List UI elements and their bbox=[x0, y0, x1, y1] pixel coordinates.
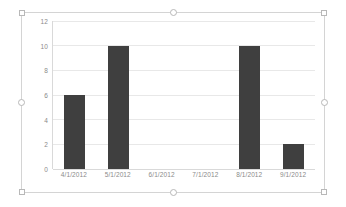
handle-middle-left[interactable] bbox=[18, 99, 25, 106]
handle-top-right[interactable] bbox=[321, 10, 327, 16]
y-axis-tick-label: 10 bbox=[41, 42, 48, 49]
handle-bottom-left[interactable] bbox=[19, 189, 25, 195]
bar[interactable] bbox=[239, 46, 260, 169]
chart-object[interactable]: 024681012 4/1/20125/1/20126/1/20127/1/20… bbox=[21, 12, 325, 193]
handle-top-left[interactable] bbox=[19, 10, 25, 16]
plot-area bbox=[52, 21, 315, 169]
y-axis-tick-label: 4 bbox=[44, 116, 48, 123]
x-axis-tick-label: 9/1/2012 bbox=[271, 171, 315, 178]
bar-slot bbox=[184, 21, 228, 169]
y-axis-tick-label: 2 bbox=[44, 141, 48, 148]
bar[interactable] bbox=[64, 95, 85, 169]
y-axis-tick-label: 8 bbox=[44, 67, 48, 74]
x-axis-tick-label: 5/1/2012 bbox=[96, 171, 140, 178]
bar-slot bbox=[140, 21, 184, 169]
bar[interactable] bbox=[108, 46, 129, 169]
chart-plot-wrapper: 024681012 4/1/20125/1/20126/1/20127/1/20… bbox=[22, 13, 324, 192]
y-axis-tick-label: 0 bbox=[44, 166, 48, 173]
handle-bottom-right[interactable] bbox=[321, 189, 327, 195]
bar-slot bbox=[228, 21, 272, 169]
y-axis-tick-label: 12 bbox=[41, 18, 48, 25]
y-axis: 024681012 bbox=[26, 21, 48, 169]
x-axis-tick-label: 4/1/2012 bbox=[52, 171, 96, 178]
bar-series bbox=[53, 21, 315, 169]
x-axis: 4/1/20125/1/20126/1/20127/1/20128/1/2012… bbox=[52, 171, 315, 178]
x-axis-tick-label: 8/1/2012 bbox=[227, 171, 271, 178]
bar[interactable] bbox=[283, 144, 304, 169]
handle-middle-right[interactable] bbox=[321, 99, 328, 106]
handle-top-center[interactable] bbox=[170, 9, 177, 16]
handle-bottom-center[interactable] bbox=[170, 189, 177, 196]
bar-slot bbox=[97, 21, 141, 169]
bar-slot bbox=[271, 21, 315, 169]
x-axis-tick-label: 6/1/2012 bbox=[140, 171, 184, 178]
bar-slot bbox=[53, 21, 97, 169]
x-axis-tick-label: 7/1/2012 bbox=[183, 171, 227, 178]
y-axis-tick-label: 6 bbox=[44, 92, 48, 99]
